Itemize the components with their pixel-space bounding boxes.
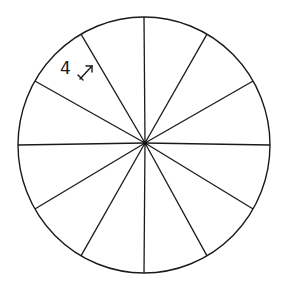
sector-label-four: 4	[60, 58, 71, 78]
circle-diagram: 4	[0, 0, 281, 287]
sector-spoke	[145, 143, 253, 209]
sector-spoke	[81, 34, 145, 143]
circle-diagram-svg	[0, 0, 281, 287]
sector-spoke	[144, 17, 145, 143]
sector-spoke	[145, 143, 207, 256]
sector-spoke	[144, 143, 145, 273]
sector-spoke	[145, 143, 270, 145]
sector-spoke	[35, 143, 145, 209]
center-point	[143, 141, 147, 145]
sector-spoke	[35, 81, 145, 143]
sector-spoke	[145, 34, 207, 143]
sector-spoke	[145, 81, 253, 143]
sector-spoke	[81, 143, 145, 256]
sector-spoke	[18, 143, 145, 145]
sector-spokes	[18, 17, 270, 273]
double-headed-arrow-icon	[78, 66, 92, 80]
